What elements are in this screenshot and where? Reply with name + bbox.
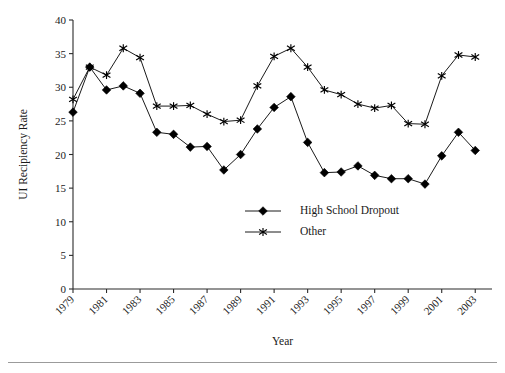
data-point-marker	[287, 92, 296, 101]
data-point-marker	[270, 52, 278, 60]
data-point-marker	[354, 100, 362, 108]
y-axis-title: UI Recipiency Rate	[17, 109, 30, 200]
data-point-marker	[421, 180, 430, 189]
data-point-marker	[119, 82, 128, 91]
y-axis: 0510152025303540	[55, 14, 73, 295]
data-point-marker	[437, 152, 446, 161]
y-tick-label: 25	[55, 115, 67, 127]
data-point-marker	[153, 128, 162, 137]
y-tick-label: 10	[55, 216, 67, 228]
x-tick-label: 1999	[388, 293, 412, 317]
data-point-marker	[253, 82, 261, 90]
data-point-marker	[404, 174, 413, 183]
y-tick-label: 5	[61, 249, 67, 261]
data-point-marker	[253, 125, 262, 134]
x-tick-label: 1979	[52, 293, 76, 317]
x-tick-label: 1989	[220, 293, 244, 317]
data-point-marker	[119, 44, 127, 52]
series-1	[69, 63, 480, 189]
y-tick-label: 0	[61, 283, 67, 295]
data-point-marker	[321, 86, 329, 94]
chart-figure: 0510152025303540197919811983198519871989…	[0, 0, 505, 373]
series-line	[73, 67, 475, 184]
data-point-marker	[387, 174, 396, 183]
series-2	[69, 44, 479, 128]
data-point-marker	[354, 162, 363, 171]
y-tick-label: 30	[55, 81, 67, 93]
data-point-marker	[337, 168, 346, 177]
data-point-marker	[169, 130, 178, 139]
x-axis-title: Year	[272, 335, 293, 347]
legend-item: High School Dropout	[245, 204, 400, 217]
x-tick-label: 1991	[253, 293, 277, 317]
chart-legend: High School DropoutOther	[245, 204, 400, 237]
data-point-marker	[136, 54, 144, 62]
data-point-marker	[203, 142, 212, 151]
data-point-marker	[259, 207, 268, 216]
x-tick-label: 1981	[86, 293, 110, 317]
x-tick-label: 1997	[354, 293, 378, 317]
x-axis: 1979198119831985198719891991199319951997…	[52, 289, 492, 317]
data-point-marker	[103, 71, 111, 79]
data-point-marker	[270, 103, 279, 112]
y-tick-label: 20	[55, 149, 67, 161]
x-tick-label: 2001	[421, 293, 445, 317]
legend-label: High School Dropout	[300, 204, 400, 217]
x-tick-label: 1983	[119, 293, 143, 317]
data-point-marker	[370, 171, 379, 180]
x-tick-label: 1987	[186, 293, 210, 317]
x-tick-label: 2003	[455, 293, 479, 317]
footer-divider	[8, 362, 497, 363]
legend-label: Other	[300, 225, 326, 237]
x-tick-label: 1993	[287, 293, 311, 317]
data-point-marker	[337, 91, 345, 99]
data-point-marker	[203, 110, 211, 118]
data-point-marker	[136, 89, 145, 98]
data-point-marker	[69, 108, 78, 117]
y-tick-label: 15	[55, 182, 67, 194]
y-tick-label: 40	[55, 14, 67, 26]
data-point-marker	[69, 95, 77, 103]
data-point-marker	[303, 138, 312, 147]
legend-item: Other	[245, 225, 326, 237]
x-tick-label: 1985	[153, 293, 177, 317]
line-chart: 0510152025303540197919811983198519871989…	[0, 0, 505, 373]
data-point-marker	[320, 168, 329, 177]
y-tick-label: 35	[55, 48, 67, 60]
x-tick-label: 1995	[321, 293, 345, 317]
data-point-marker	[102, 86, 111, 95]
data-point-marker	[186, 143, 195, 152]
